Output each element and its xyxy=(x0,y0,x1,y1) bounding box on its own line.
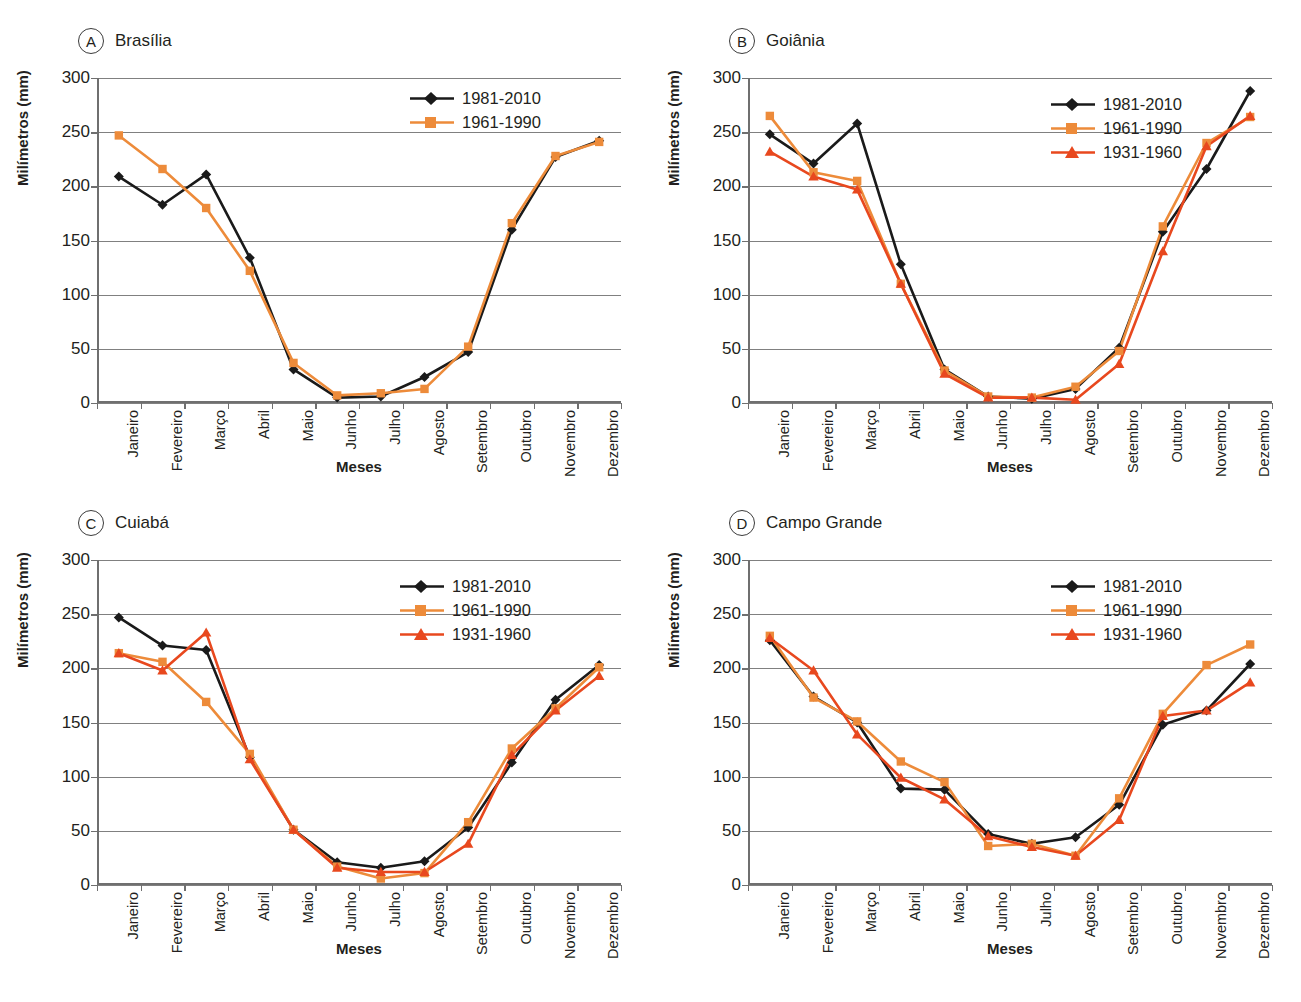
legend-label: 1981-2010 xyxy=(462,89,541,108)
panel-a: ABrasíliaMilímetros (mm)0501001502002503… xyxy=(0,6,650,506)
legend: 1981-2010 1961-1990 1931-1960 xyxy=(1051,574,1182,646)
x-axis-title: Meses xyxy=(97,940,621,957)
legend-item[interactable]: 1961-1990 xyxy=(1051,598,1182,622)
x-axis-tick-label: Abril xyxy=(907,892,923,921)
legend-label: 1961-1990 xyxy=(1103,601,1182,620)
legend-label: 1961-1990 xyxy=(1103,119,1182,138)
legend-label: 1961-1990 xyxy=(462,113,541,132)
x-axis-title: Meses xyxy=(748,458,1272,475)
x-axis-tick-label: Janeiro xyxy=(125,410,141,458)
legend-item[interactable]: 1931-1960 xyxy=(1051,140,1182,164)
x-axis-tick-label: Julho xyxy=(1038,892,1054,927)
x-axis-tick-label: Julho xyxy=(387,892,403,927)
y-axis-tick-label: 200 xyxy=(62,176,90,196)
legend-item[interactable]: 1981-2010 xyxy=(1051,92,1182,116)
x-axis-tick-label: Abril xyxy=(256,410,272,439)
series-layer xyxy=(97,78,621,405)
x-axis-tick-label: Agosto xyxy=(431,892,447,937)
legend-marker-icon xyxy=(1051,603,1095,617)
x-axis-tick-label: Junho xyxy=(343,892,359,932)
x-axis-tick-label: Junho xyxy=(343,410,359,450)
x-axis-tick-label: Janeiro xyxy=(125,892,141,940)
y-axis-tick-label: 100 xyxy=(713,766,741,786)
y-axis-tick-label: 0 xyxy=(732,393,741,413)
legend-item[interactable]: 1931-1960 xyxy=(1051,622,1182,646)
legend-marker-icon xyxy=(1051,121,1095,135)
y-axis-tick-label: 0 xyxy=(732,875,741,895)
series-layer xyxy=(748,78,1272,405)
y-axis-title: Milímetros (mm) xyxy=(665,552,682,668)
y-axis-tick-label: 300 xyxy=(713,68,741,88)
x-axis-tick-mark xyxy=(1272,885,1273,891)
x-axis-tick-label: Julho xyxy=(1038,410,1054,445)
y-axis-tick-label: 150 xyxy=(713,230,741,250)
panel-header-c: CCuiabá xyxy=(78,510,169,536)
legend-label: 1931-1960 xyxy=(1103,625,1182,644)
y-axis-tick-label: 250 xyxy=(713,604,741,624)
y-axis-tick-label: 50 xyxy=(71,820,90,840)
panel-tag-badge: A xyxy=(78,28,104,54)
x-axis-tick-label: Março xyxy=(212,410,228,450)
y-axis-title: Milímetros (mm) xyxy=(665,70,682,186)
y-axis-tick-label: 250 xyxy=(62,604,90,624)
panel-tag-badge: C xyxy=(78,510,104,536)
legend-item[interactable]: 1961-1990 xyxy=(1051,116,1182,140)
y-axis-tick-label: 150 xyxy=(62,230,90,250)
y-axis-tick-label: 100 xyxy=(713,284,741,304)
x-axis-tick-label: Março xyxy=(863,410,879,450)
legend-marker-icon xyxy=(1051,97,1095,111)
legend-item[interactable]: 1981-2010 xyxy=(410,86,541,110)
y-axis-tick-label: 200 xyxy=(713,176,741,196)
legend-marker-icon xyxy=(1051,579,1095,593)
y-axis-tick-label: 200 xyxy=(713,658,741,678)
x-axis-tick-label: Outubro xyxy=(1169,892,1185,944)
panel-title: Brasília xyxy=(115,31,172,51)
plot-area: 050100150200250300 xyxy=(97,560,621,885)
legend-marker-icon xyxy=(410,91,454,105)
y-axis-tick-label: 150 xyxy=(62,712,90,732)
plot-area: 050100150200250300 xyxy=(748,560,1272,885)
x-axis-tick-label: Maio xyxy=(300,892,316,923)
x-axis-tick-label: Maio xyxy=(951,892,967,923)
y-axis-tick-label: 250 xyxy=(713,122,741,142)
panel-tag-badge: B xyxy=(729,28,755,54)
x-axis-tick-label: Março xyxy=(863,892,879,932)
legend-label: 1961-1990 xyxy=(452,601,531,620)
y-axis-tick-label: 0 xyxy=(81,393,90,413)
plot-area: 050100150200250300 xyxy=(748,78,1272,403)
legend-item[interactable]: 1931-1960 xyxy=(400,622,531,646)
legend-item[interactable]: 1981-2010 xyxy=(1051,574,1182,598)
x-axis-tick-label: Abril xyxy=(907,410,923,439)
series-layer xyxy=(748,560,1272,887)
panel-title: Cuiabá xyxy=(115,513,169,533)
x-axis-tick-label: Agosto xyxy=(1082,892,1098,937)
panel-tag-badge: D xyxy=(729,510,755,536)
x-axis-tick-label: Outubro xyxy=(518,892,534,944)
legend-marker-icon xyxy=(400,579,444,593)
series-layer xyxy=(97,560,621,887)
legend-item[interactable]: 1961-1990 xyxy=(410,110,541,134)
legend-label: 1981-2010 xyxy=(1103,95,1182,114)
y-axis-tick-label: 0 xyxy=(81,875,90,895)
legend-item[interactable]: 1961-1990 xyxy=(400,598,531,622)
x-axis-tick-label: Junho xyxy=(994,410,1010,450)
x-axis-tick-label: Maio xyxy=(300,410,316,441)
x-axis-tick-label: Junho xyxy=(994,892,1010,932)
y-axis-title: Milímetros (mm) xyxy=(14,552,31,668)
y-axis-tick-label: 50 xyxy=(71,338,90,358)
panel-c: CCuiabáMilímetros (mm)050100150200250300… xyxy=(0,488,650,988)
x-axis-tick-label: Maio xyxy=(951,410,967,441)
panel-header-d: DCampo Grande xyxy=(729,510,882,536)
legend-item[interactable]: 1981-2010 xyxy=(400,574,531,598)
panel-header-b: BGoiânia xyxy=(729,28,825,54)
panel-b: BGoiâniaMilímetros (mm)05010015020025030… xyxy=(651,6,1301,506)
legend-label: 1931-1960 xyxy=(1103,143,1182,162)
y-axis-tick-label: 150 xyxy=(713,712,741,732)
x-axis-title: Meses xyxy=(748,940,1272,957)
panel-title: Goiânia xyxy=(766,31,825,51)
legend: 1981-2010 1961-1990 1931-1960 xyxy=(400,574,531,646)
chart-grid: ABrasíliaMilímetros (mm)0501001502002503… xyxy=(0,0,1301,1002)
x-axis-tick-label: Agosto xyxy=(1082,410,1098,455)
legend: 1981-2010 1961-1990 1931-1960 xyxy=(1051,92,1182,164)
y-axis-title: Milímetros (mm) xyxy=(14,70,31,186)
